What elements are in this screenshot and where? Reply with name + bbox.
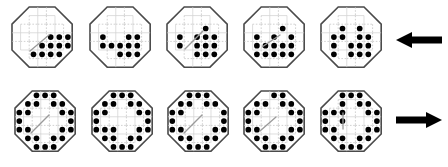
cell-dot xyxy=(204,101,210,107)
cell-dot xyxy=(254,135,260,141)
octagon-outline xyxy=(92,91,152,151)
cell-dot xyxy=(25,135,31,141)
cell-dot xyxy=(102,101,108,107)
octagon-outline xyxy=(12,7,72,67)
cell-dot xyxy=(254,34,260,40)
cell-dot xyxy=(134,34,140,40)
cell-dot xyxy=(357,101,363,107)
cell-dot xyxy=(203,51,209,57)
cell-dot xyxy=(194,51,200,57)
cell-dot xyxy=(271,43,277,49)
octagon-outline xyxy=(244,91,304,151)
cell-dot xyxy=(136,135,142,141)
cell-dot xyxy=(245,118,251,124)
cell-dot xyxy=(254,101,260,107)
cell-dot xyxy=(136,101,142,107)
cell-dot xyxy=(195,144,201,150)
panel-bottom-1 xyxy=(14,90,76,152)
cell-dot xyxy=(134,51,140,57)
cell-dot xyxy=(348,92,354,98)
cell-dot xyxy=(204,144,210,150)
cell-dot xyxy=(271,51,277,57)
top-row xyxy=(0,0,448,83)
cell-dot xyxy=(263,101,269,107)
cell-dot xyxy=(169,127,175,133)
cell-dot xyxy=(331,51,337,57)
panel-top-5 xyxy=(320,6,382,68)
cell-dot xyxy=(178,135,184,141)
cell-dot xyxy=(59,101,65,107)
octagon-outline xyxy=(15,91,75,151)
cell-dot xyxy=(187,101,193,107)
cell-dot xyxy=(34,135,40,141)
cell-dot xyxy=(245,110,251,116)
cell-dot xyxy=(340,34,346,40)
cell-dot xyxy=(117,43,123,49)
cell-dot xyxy=(280,135,286,141)
cell-dot xyxy=(212,127,218,133)
cell-dot xyxy=(340,92,346,98)
cell-dot xyxy=(331,135,337,141)
cell-dot xyxy=(365,51,371,57)
cell-dot xyxy=(374,127,380,133)
panel-bottom-2 xyxy=(91,90,153,152)
cell-dot xyxy=(254,110,260,116)
cell-dot xyxy=(271,92,277,98)
cell-dot xyxy=(16,127,22,133)
cell-dot xyxy=(25,127,31,133)
cell-dot xyxy=(280,26,286,32)
cell-dot xyxy=(34,92,40,98)
cell-dot xyxy=(340,144,346,150)
cell-dot xyxy=(111,144,117,150)
cell-dot xyxy=(109,43,115,49)
cell-dot xyxy=(263,51,269,57)
cell-dot xyxy=(288,51,294,57)
cell-dot xyxy=(357,26,363,32)
cell-dot xyxy=(59,127,65,133)
cell-dot xyxy=(288,43,294,49)
cell-dot xyxy=(357,144,363,150)
cell-dot xyxy=(187,144,193,150)
cell-dot xyxy=(145,110,151,116)
cell-dot xyxy=(102,135,108,141)
arrow-right xyxy=(396,111,442,129)
octagon-outline xyxy=(321,7,381,67)
cell-dot xyxy=(65,34,71,40)
cell-dot xyxy=(16,110,22,116)
octagon-outline xyxy=(168,91,228,151)
cell-dot xyxy=(31,51,37,57)
arrow-glyph xyxy=(396,32,442,48)
cell-dot xyxy=(288,34,294,40)
cell-dot xyxy=(102,110,108,116)
cell-dot xyxy=(348,144,354,150)
automaton-figure xyxy=(0,0,448,167)
cell-dot xyxy=(221,127,227,133)
cell-dot xyxy=(365,34,371,40)
arrow-left xyxy=(396,31,442,49)
cell-dot xyxy=(204,92,210,98)
cell-dot xyxy=(102,127,108,133)
cell-dot xyxy=(221,118,227,124)
cell-dot xyxy=(288,110,294,116)
cell-dot xyxy=(169,110,175,116)
cell-dot xyxy=(280,51,286,57)
cell-dot xyxy=(254,127,260,133)
cell-dot xyxy=(56,51,62,57)
cell-dot xyxy=(365,43,371,49)
panel-top-3 xyxy=(166,6,228,68)
cell-dot xyxy=(322,127,328,133)
cell-dot xyxy=(212,101,218,107)
cell-dot xyxy=(119,92,125,98)
cell-dot xyxy=(203,34,209,40)
cell-dot xyxy=(178,101,184,107)
cell-dot xyxy=(254,43,260,49)
cell-dot xyxy=(16,118,22,124)
cell-dot xyxy=(145,127,151,133)
cell-dot xyxy=(93,110,99,116)
cell-dot xyxy=(288,127,294,133)
cell-dot xyxy=(100,34,106,40)
cell-dot xyxy=(119,144,125,150)
panel-bottom-4 xyxy=(243,90,305,152)
cell-dot xyxy=(263,135,269,141)
cell-dot xyxy=(340,135,346,141)
